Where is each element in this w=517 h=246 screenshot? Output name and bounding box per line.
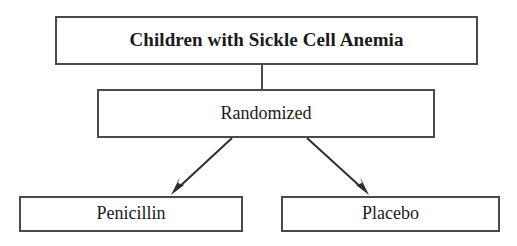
- node-placebo-label: Placebo: [362, 204, 419, 224]
- node-children-with-sickle-cell-anemia[interactable]: Children with Sickle Cell Anemia: [55, 16, 478, 65]
- node-penicillin-label: Penicillin: [97, 204, 166, 224]
- arrow-randomized-to-placebo-shaft: [307, 138, 363, 189]
- node-placebo[interactable]: Placebo: [281, 196, 500, 232]
- node-penicillin[interactable]: Penicillin: [19, 196, 243, 232]
- flowchart-canvas: Children with Sickle Cell Anemia Randomi…: [0, 0, 517, 246]
- arrow-randomized-to-penicillin-shaft: [177, 138, 232, 189]
- node-root-label: Children with Sickle Cell Anemia: [129, 30, 403, 51]
- node-randomized-label: Randomized: [221, 104, 312, 124]
- arrow-randomized-to-penicillin-head: [171, 177, 184, 195]
- arrow-randomized-to-placebo-head: [356, 177, 369, 195]
- node-randomized[interactable]: Randomized: [97, 89, 435, 138]
